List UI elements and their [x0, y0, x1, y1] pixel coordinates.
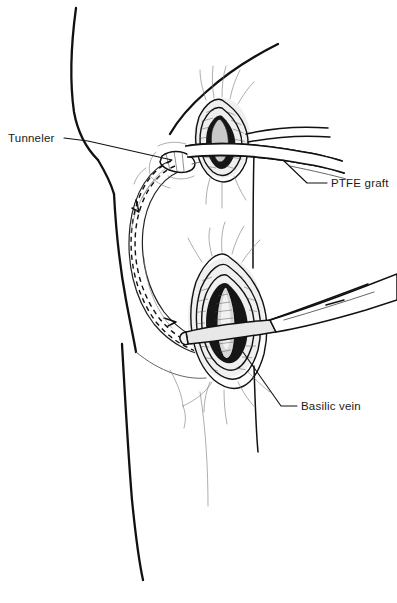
trunk-left-contour	[71, 8, 98, 160]
antecubital-crease-3	[183, 382, 212, 406]
lower-wound-strands-top	[188, 222, 260, 262]
tunneler-tip-hatch-2	[174, 151, 177, 171]
graft-second-limb-lower	[248, 136, 330, 142]
illustration-canvas: Tunneler PTFE graft Basilic vein	[0, 0, 397, 603]
annotations-group: Tunneler PTFE graft Basilic vein	[8, 132, 389, 412]
upper-arm-right-contour	[253, 152, 254, 268]
tunneler-tip-hatch-3	[182, 152, 184, 171]
upper-incision	[194, 66, 254, 208]
ptfe-graft-label: PTFE graft	[331, 177, 389, 189]
tunneler-label: Tunneler	[8, 132, 55, 144]
upper-wound-strands-bottom	[206, 176, 246, 208]
arm-left-contour	[114, 194, 136, 352]
basilic-vein-label: Basilic vein	[301, 400, 361, 412]
graft-second-limb-upper	[246, 127, 328, 134]
forearm-left-contour	[122, 344, 143, 580]
antecubital-crease-2	[183, 406, 185, 428]
tunneler-rod-tip	[180, 332, 188, 345]
upper-wound-strands	[200, 66, 254, 104]
surgical-illustration-figure: Tunneler PTFE graft Basilic vein	[0, 0, 397, 603]
axillary-fold	[98, 160, 114, 194]
tunneler-leader-line	[64, 138, 172, 160]
elbow-inner-contour	[136, 352, 206, 378]
